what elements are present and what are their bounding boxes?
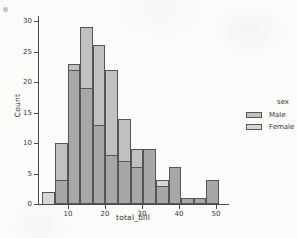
x-tick-mark [179, 205, 180, 209]
bar-overlap-segment [156, 186, 169, 204]
x-tick-label: 40 [171, 210, 187, 218]
bar-male-segment [93, 45, 106, 124]
legend-label: Female [269, 123, 294, 131]
bar-male-segment [80, 27, 93, 88]
bar-male-segment [118, 119, 131, 162]
y-tick-label: 0 [20, 200, 32, 208]
y-tick-label: 5 [20, 170, 32, 178]
x-tick-label: 10 [60, 210, 76, 218]
y-tick-mark [34, 143, 38, 144]
bar-overlap-segment [93, 125, 106, 204]
y-tick-mark [34, 82, 38, 83]
bar-male-segment [105, 70, 118, 155]
y-tick-mark [34, 204, 38, 205]
x-tick-mark [105, 205, 106, 209]
scan-speck [3, 7, 8, 12]
x-axis-spine [38, 204, 229, 205]
legend-entry-male: Male [246, 109, 294, 121]
bar-overlap-segment [80, 88, 93, 204]
x-tick-mark [142, 205, 143, 209]
y-axis-spine [38, 16, 39, 205]
y-tick-label: 25 [20, 48, 32, 56]
bar-overlap-segment [169, 167, 182, 204]
y-tick-mark [34, 21, 38, 22]
bar-overlap-segment [68, 70, 81, 204]
histogram-figure: 0510152025301020304050 Count total_bill … [0, 0, 297, 238]
x-axis-label: total_bill [93, 213, 173, 222]
y-tick-label: 30 [20, 17, 32, 25]
bar-overlap-segment [105, 155, 118, 204]
bar-male-segment [68, 64, 81, 70]
legend: sex MaleFemale [246, 98, 294, 133]
bar-male-segment [131, 149, 144, 167]
bar-female-segment [156, 180, 169, 186]
y-tick-label: 20 [20, 78, 32, 86]
bar-overlap-segment [131, 167, 144, 204]
legend-entries: MaleFemale [246, 109, 294, 133]
bar-female-segment [42, 192, 55, 204]
y-tick-mark [34, 113, 38, 114]
y-tick-label: 15 [20, 109, 32, 117]
y-tick-label: 10 [20, 139, 32, 147]
y-tick-mark [34, 174, 38, 175]
bar-overlap-segment [55, 180, 68, 204]
bar-overlap-segment [143, 149, 156, 204]
y-axis-label: Count [13, 91, 22, 121]
bar-overlap-segment [118, 161, 131, 204]
x-tick-label: 50 [208, 210, 224, 218]
female-swatch [246, 124, 262, 130]
bar-male-segment [55, 143, 68, 180]
legend-entry-female: Female [246, 121, 294, 133]
bar-overlap-segment [206, 180, 219, 204]
male-swatch [246, 112, 262, 118]
y-tick-mark [34, 52, 38, 53]
x-tick-mark [216, 205, 217, 209]
legend-title: sex [277, 98, 294, 106]
x-tick-mark [68, 205, 69, 209]
legend-label: Male [269, 111, 286, 119]
